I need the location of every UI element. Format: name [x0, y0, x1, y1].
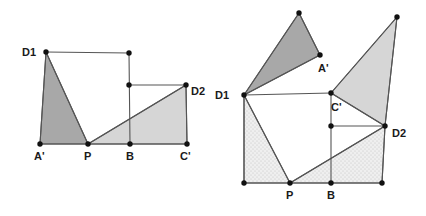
vertex-label-right-diagram-cq: C': [331, 101, 342, 113]
vertex-dot-left-diagram-cq: [184, 141, 189, 146]
vertex-label-right-diagram-d1: D1: [215, 89, 229, 101]
vertex-dot-right-diagram-r: [394, 14, 399, 19]
vertex-dot-left-diagram-aq: [37, 141, 42, 146]
vertex-dot-right-diagram-cq: [328, 90, 333, 95]
vertex-dot-right-diagram-l: [241, 180, 246, 185]
vertex-dot-left-diagram-p: [85, 141, 90, 146]
vertex-label-right-diagram-d2: D2: [392, 127, 406, 139]
vertex-label-left-diagram-p: P: [84, 150, 91, 162]
vertex-dot-left-diagram-d2: [183, 82, 188, 87]
vertex-label-left-diagram-d1: D1: [22, 46, 36, 58]
vertex-dot-right-diagram-d2: [382, 123, 387, 128]
vertex-dot-right-diagram-p: [287, 180, 292, 185]
vertex-dot-right-diagram-e: [379, 180, 384, 185]
vertex-dot-left-diagram-b: [127, 141, 132, 146]
vertex-label-right-diagram-b: B: [327, 189, 335, 201]
vertex-label-left-diagram-b: B: [126, 150, 134, 162]
vertex-dot-right-diagram-k: [296, 10, 301, 15]
vertex-dot-right-diagram-d1: [241, 92, 246, 97]
vertex-label-left-diagram-cq: C': [180, 150, 191, 162]
vertex-dot-left-diagram-t1: [126, 50, 131, 55]
vertex-label-left-diagram-aq: A': [34, 150, 45, 162]
geometry-figure-canvas: D1D2A'PBC'A'D1C'D2PB: [0, 0, 426, 216]
vertex-dot-right-diagram-m2: [328, 123, 333, 128]
vertex-label-right-diagram-aq: A': [318, 62, 329, 74]
vertex-dot-right-diagram-b: [328, 180, 333, 185]
vertex-dot-right-diagram-aq: [317, 52, 322, 57]
vertex-dot-left-diagram-d1: [43, 49, 48, 54]
vertex-label-left-diagram-d2: D2: [191, 85, 205, 97]
vertex-dot-left-diagram-m1: [126, 82, 131, 87]
vertex-label-right-diagram-p: P: [286, 189, 293, 201]
